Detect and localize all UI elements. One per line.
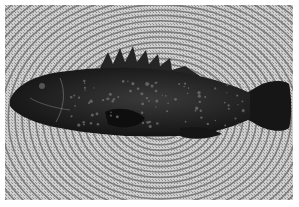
fish-spot bbox=[167, 103, 169, 105]
fish-spot bbox=[112, 100, 114, 102]
fish-spot bbox=[238, 123, 241, 126]
fish-spot bbox=[215, 120, 217, 122]
fish-spot bbox=[207, 123, 209, 125]
fish-spot bbox=[224, 102, 226, 104]
fish-spot bbox=[110, 112, 112, 114]
fish-photo-svg bbox=[0, 0, 299, 207]
fish-spot bbox=[183, 86, 185, 88]
fish-spot bbox=[102, 99, 104, 101]
fish-spot bbox=[93, 87, 94, 88]
fish-spot bbox=[84, 89, 85, 90]
fish-eye bbox=[39, 83, 45, 89]
fish-spot bbox=[155, 106, 156, 107]
fish-spot bbox=[197, 91, 200, 94]
fish-spot bbox=[140, 92, 143, 95]
fish-spot bbox=[214, 88, 216, 90]
fish-spot bbox=[199, 101, 201, 103]
fish-spot bbox=[83, 124, 85, 126]
fish-spot bbox=[237, 104, 238, 105]
fish-spot bbox=[178, 83, 180, 85]
fish-spot bbox=[70, 115, 72, 117]
fish-spot bbox=[131, 82, 134, 85]
fish-spot bbox=[204, 96, 206, 98]
fish-spot bbox=[155, 90, 158, 93]
fish-spot bbox=[110, 115, 112, 117]
fish-spot bbox=[185, 121, 187, 123]
fish-spot bbox=[224, 125, 226, 127]
fish-spot bbox=[187, 93, 189, 95]
fish-spot bbox=[91, 114, 94, 117]
fish-spot bbox=[84, 87, 86, 89]
fish-spot bbox=[109, 98, 110, 99]
fish-spot bbox=[228, 108, 230, 110]
fish-spot bbox=[184, 83, 186, 85]
fish-spot bbox=[195, 107, 198, 110]
fish-spot bbox=[96, 113, 99, 116]
fish-spot bbox=[122, 80, 125, 83]
fish-spot bbox=[155, 82, 157, 84]
fish-spot bbox=[234, 117, 236, 119]
fish-spot bbox=[236, 95, 238, 97]
fish-spot bbox=[84, 83, 86, 85]
fish-spot bbox=[117, 96, 119, 98]
fish-spot bbox=[228, 104, 230, 106]
fish-spot bbox=[162, 95, 163, 96]
fish-spot bbox=[198, 95, 201, 98]
fish-spot bbox=[113, 98, 115, 100]
tail-fin bbox=[250, 81, 291, 131]
fish-spot bbox=[200, 116, 202, 118]
fish-spot bbox=[141, 103, 144, 106]
fish-spot bbox=[148, 100, 150, 102]
fish-spot bbox=[195, 110, 197, 112]
fish-spot bbox=[165, 95, 167, 97]
fish-spot bbox=[142, 122, 144, 124]
fish-spot bbox=[137, 88, 140, 91]
fish-spot bbox=[127, 81, 128, 82]
fish-spot bbox=[149, 125, 152, 128]
fish-spot bbox=[146, 97, 148, 99]
fish-spot bbox=[146, 121, 149, 124]
fish-spot bbox=[129, 90, 132, 93]
photo bbox=[0, 0, 299, 207]
fish-spot bbox=[200, 110, 202, 112]
fish-spot bbox=[226, 92, 227, 93]
fish-spot bbox=[151, 85, 154, 88]
fish-spot bbox=[174, 98, 177, 101]
fish-spot bbox=[97, 123, 100, 126]
fish-spot bbox=[109, 93, 112, 96]
fish-spot bbox=[141, 111, 144, 114]
fish-spot bbox=[74, 105, 76, 107]
fish-spot bbox=[242, 101, 244, 103]
fish-spot bbox=[90, 122, 93, 125]
fish-spot bbox=[155, 100, 158, 103]
fish-spot bbox=[166, 110, 168, 112]
fish-spot bbox=[83, 121, 85, 123]
fish-spot bbox=[88, 102, 90, 104]
fish-spot bbox=[73, 95, 75, 97]
fish-spot bbox=[145, 82, 148, 85]
fish-spot bbox=[156, 122, 159, 125]
fish-spot bbox=[188, 87, 190, 89]
fish-spot bbox=[77, 123, 80, 126]
fish-spot bbox=[227, 84, 229, 86]
fish-spot bbox=[116, 115, 119, 118]
fish-spot bbox=[83, 80, 85, 82]
fish-spot bbox=[243, 111, 245, 113]
fish-spot bbox=[78, 97, 80, 99]
fish-spot bbox=[70, 96, 72, 98]
